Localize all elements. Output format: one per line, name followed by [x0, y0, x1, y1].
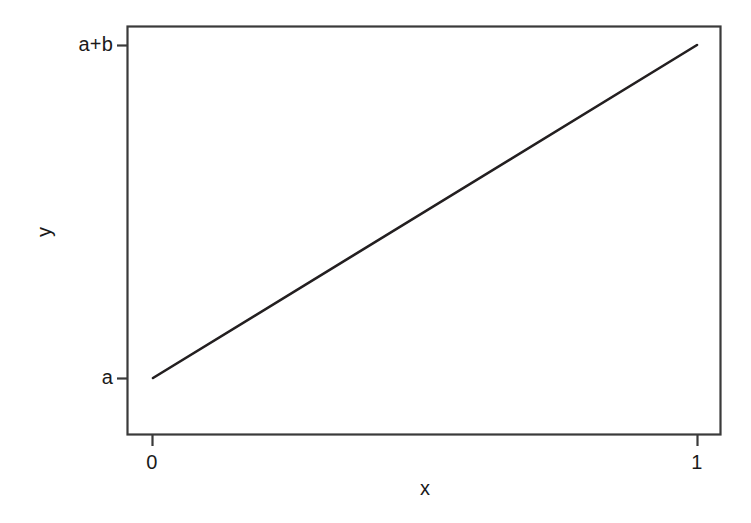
y-axis-ticks	[117, 46, 128, 379]
y-axis-title: y	[34, 212, 54, 252]
x-tick-label-left: 0	[132, 452, 172, 472]
x-axis-title: x	[405, 478, 445, 498]
x-tick-label-right: 1	[677, 452, 717, 472]
chart-figure: a+b a 0 1 x y	[0, 0, 751, 523]
data-line-series-0	[153, 45, 697, 378]
plot-frame	[128, 27, 721, 435]
plot-canvas	[0, 0, 751, 523]
y-tick-label-top: a+b	[78, 34, 113, 54]
x-axis-ticks	[153, 434, 698, 446]
y-tick-label-bottom: a	[102, 367, 113, 387]
